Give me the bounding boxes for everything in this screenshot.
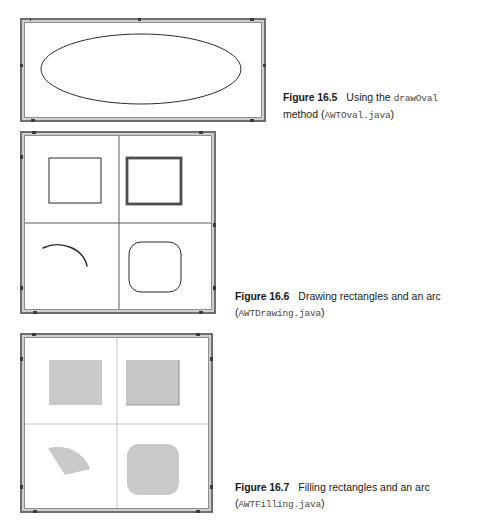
figure-16-5-caption: Figure 16.5Using the drawOval method (AW… bbox=[283, 90, 483, 123]
figure-16-6-line2-code: AWTDrawing.java bbox=[239, 308, 322, 319]
frame-tick-bottom-left bbox=[33, 311, 37, 314]
draw-3d-rect-shape bbox=[127, 158, 181, 204]
figure-16-7-line2-code: AWTFilling.java bbox=[239, 499, 322, 510]
frame-tick-bottom-left bbox=[33, 510, 37, 513]
window-client-area bbox=[24, 337, 209, 509]
fill-rect-plain-shape bbox=[49, 360, 102, 405]
figure-16-6-caption: Figure 16.6Drawing rectangles and an arc… bbox=[235, 289, 485, 321]
window-client-area bbox=[24, 22, 262, 118]
frame-tick-right-mid bbox=[213, 223, 216, 227]
fill-round-rect-shape bbox=[127, 444, 179, 495]
figure-16-6-line2-after: ) bbox=[321, 306, 325, 318]
figure-16-6-block bbox=[20, 131, 216, 314]
draw-arc-shape bbox=[43, 245, 87, 266]
oval-outline-shape bbox=[41, 34, 241, 104]
frame-tick-right-mid bbox=[263, 64, 266, 67]
figure-16-7-line2-after: ) bbox=[321, 497, 325, 509]
figure-16-7-text: Filling rectangles and an arc bbox=[298, 481, 429, 493]
figure-16-7-label: Figure 16.7 bbox=[235, 481, 289, 493]
draw-rect-plain-shape bbox=[49, 158, 101, 203]
figure-16-5-label: Figure 16.5 bbox=[283, 91, 337, 103]
awt-window-filling[interactable] bbox=[20, 333, 213, 513]
figure-16-6-text: Drawing rectangles and an arc bbox=[298, 290, 440, 302]
frame-tick-bottom-left bbox=[31, 119, 35, 122]
frame-tick-top-right bbox=[250, 18, 254, 21]
frame-tick-top-left bbox=[32, 333, 36, 336]
figure-16-5-line2-before: method ( bbox=[283, 108, 324, 120]
fill-3d-rect-shape bbox=[126, 360, 179, 405]
fill-arc-shape bbox=[48, 447, 90, 475]
drawing-canvas-oval bbox=[25, 23, 261, 117]
frame-tick-top-mid bbox=[138, 18, 141, 21]
frame-tick-top-right bbox=[199, 131, 203, 134]
figure-16-5-line2-code: AWTOval.java bbox=[324, 110, 390, 121]
frame-tick-left-mid bbox=[20, 64, 23, 67]
figure-16-7-block bbox=[20, 333, 213, 513]
drawing-canvas-filling bbox=[25, 338, 208, 508]
draw-3d-rect-inner-edge bbox=[127, 158, 181, 204]
frame-tick-right-low bbox=[213, 286, 216, 290]
draw-round-rect-shape bbox=[129, 242, 181, 292]
frame-tick-bottom-right bbox=[250, 119, 254, 122]
figure-16-5-line2-after: ) bbox=[390, 108, 394, 120]
frame-tick-top-left bbox=[32, 131, 36, 134]
window-client-area bbox=[24, 135, 212, 310]
figure-16-7-caption: Figure 16.7Filling rectangles and an arc… bbox=[235, 480, 485, 512]
frame-tick-top-left bbox=[30, 18, 31, 21]
figure-16-6-label: Figure 16.6 bbox=[235, 290, 289, 302]
frame-tick-left-mid bbox=[20, 155, 23, 159]
frame-tick-bottom-right bbox=[199, 311, 203, 314]
frame-tick-left-mid bbox=[20, 357, 23, 361]
frame-tick-left-low bbox=[20, 286, 23, 290]
frame-tick-top-right bbox=[196, 333, 200, 336]
frame-tick-right-mid bbox=[210, 357, 213, 361]
frame-tick-left-low bbox=[20, 485, 23, 489]
figure-16-5-block bbox=[20, 18, 266, 122]
figure-16-5-text: Using the bbox=[346, 91, 393, 103]
awt-window-oval[interactable] bbox=[20, 18, 266, 122]
frame-tick-right-low bbox=[210, 485, 213, 489]
frame-tick-bottom-right bbox=[196, 510, 200, 513]
drawing-canvas-drawing bbox=[25, 136, 211, 309]
figure-16-5-code-inline: drawOval bbox=[394, 93, 438, 104]
awt-window-drawing[interactable] bbox=[20, 131, 216, 314]
